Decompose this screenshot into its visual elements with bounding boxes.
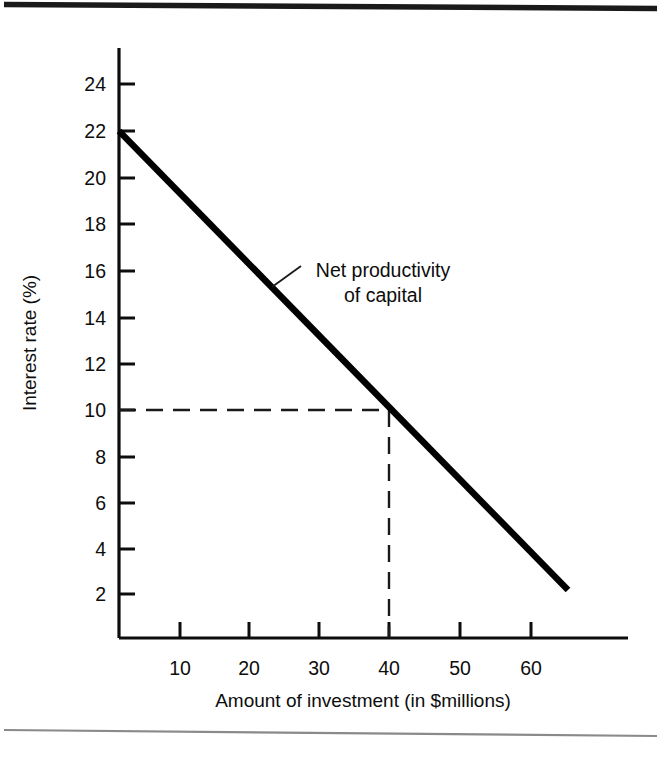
y-tick-label: 8 [95,446,106,468]
x-tick-label: 20 [238,657,260,679]
curve-label: Net productivity of capital [316,259,451,306]
y-axis-tick-labels: 24 22 20 18 16 14 12 10 8 6 4 2 [84,73,106,605]
x-axis-tick-labels: 10 20 30 40 50 60 [169,657,542,679]
x-tick-label: 30 [308,657,330,679]
y-tick-label: 16 [84,260,106,282]
x-tick-label: 50 [449,657,471,679]
x-tick-label: 10 [169,657,191,679]
y-tick-label: 24 [84,73,106,95]
y-tick-label: 4 [95,538,106,560]
y-tick-label: 2 [95,583,106,605]
y-tick-label: 18 [84,213,106,235]
y-tick-label: 10 [84,399,106,421]
x-tick-label: 60 [520,657,542,679]
y-axis-title: Interest rate (%) [19,275,40,411]
y-tick-label: 14 [84,307,106,329]
curve-label-leader-line [272,266,301,287]
axes [119,48,628,638]
curve-label-line-1: Net productivity [316,259,451,281]
x-tick-label: 40 [378,657,400,679]
y-tick-label: 20 [84,167,106,189]
y-tick-label: 22 [84,120,106,142]
net-productivity-of-capital-line [119,131,568,590]
curve-label-line-2: of capital [344,284,422,306]
reference-lines [119,410,389,638]
y-tick-label: 6 [95,492,106,514]
chart-figure: 24 22 20 18 16 14 12 10 8 6 4 2 10 20 30 [0,0,661,758]
x-axis-ticks [180,622,531,638]
y-tick-label: 12 [84,353,106,375]
x-axis-title: Amount of investment (in $millions) [215,690,511,711]
figure-page: 24 22 20 18 16 14 12 10 8 6 4 2 10 20 30 [0,0,661,758]
bottom-rule [4,730,657,736]
top-rule [4,5,657,9]
y-axis-ticks [119,84,135,594]
